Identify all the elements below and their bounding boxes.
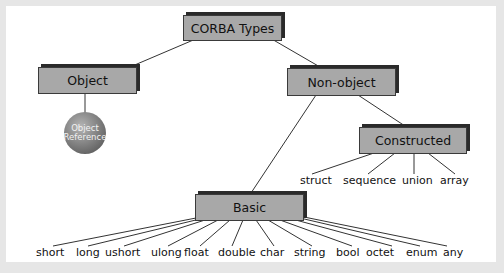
leaf-array: array	[440, 174, 469, 187]
leaf-ushort: ushort	[105, 246, 140, 259]
leaf-long: long	[76, 246, 100, 259]
node-non-object: Non-object	[287, 68, 396, 96]
leaf-union: union	[402, 174, 433, 187]
leaf-ulong: ulong	[151, 246, 182, 259]
node-label: Non-object	[307, 75, 375, 90]
leaf-char: char	[260, 246, 284, 259]
object-reference-sphere-icon: Object Reference	[64, 112, 106, 154]
leaf-short: short	[36, 246, 64, 259]
node-corba-types: CORBA Types	[183, 15, 282, 41]
node-label: Constructed	[375, 133, 451, 148]
leaf-double: double	[218, 246, 256, 259]
node-object: Object	[38, 67, 137, 94]
leaf-float: float	[184, 246, 209, 259]
node-label: Basic	[233, 200, 266, 215]
sphere-label-line2: Reference	[64, 133, 107, 142]
leaf-struct: struct	[300, 174, 332, 187]
leaf-octet: octet	[366, 246, 394, 259]
node-label: CORBA Types	[191, 21, 275, 36]
node-label: Object	[67, 73, 108, 88]
leaf-string: string	[294, 246, 326, 259]
leaf-sequence: sequence	[343, 174, 396, 187]
leaf-enum: enum	[406, 246, 437, 259]
node-constructed: Constructed	[359, 127, 467, 154]
node-basic: Basic	[195, 194, 304, 221]
leaf-any: any	[443, 246, 463, 259]
leaf-bool: bool	[336, 246, 360, 259]
